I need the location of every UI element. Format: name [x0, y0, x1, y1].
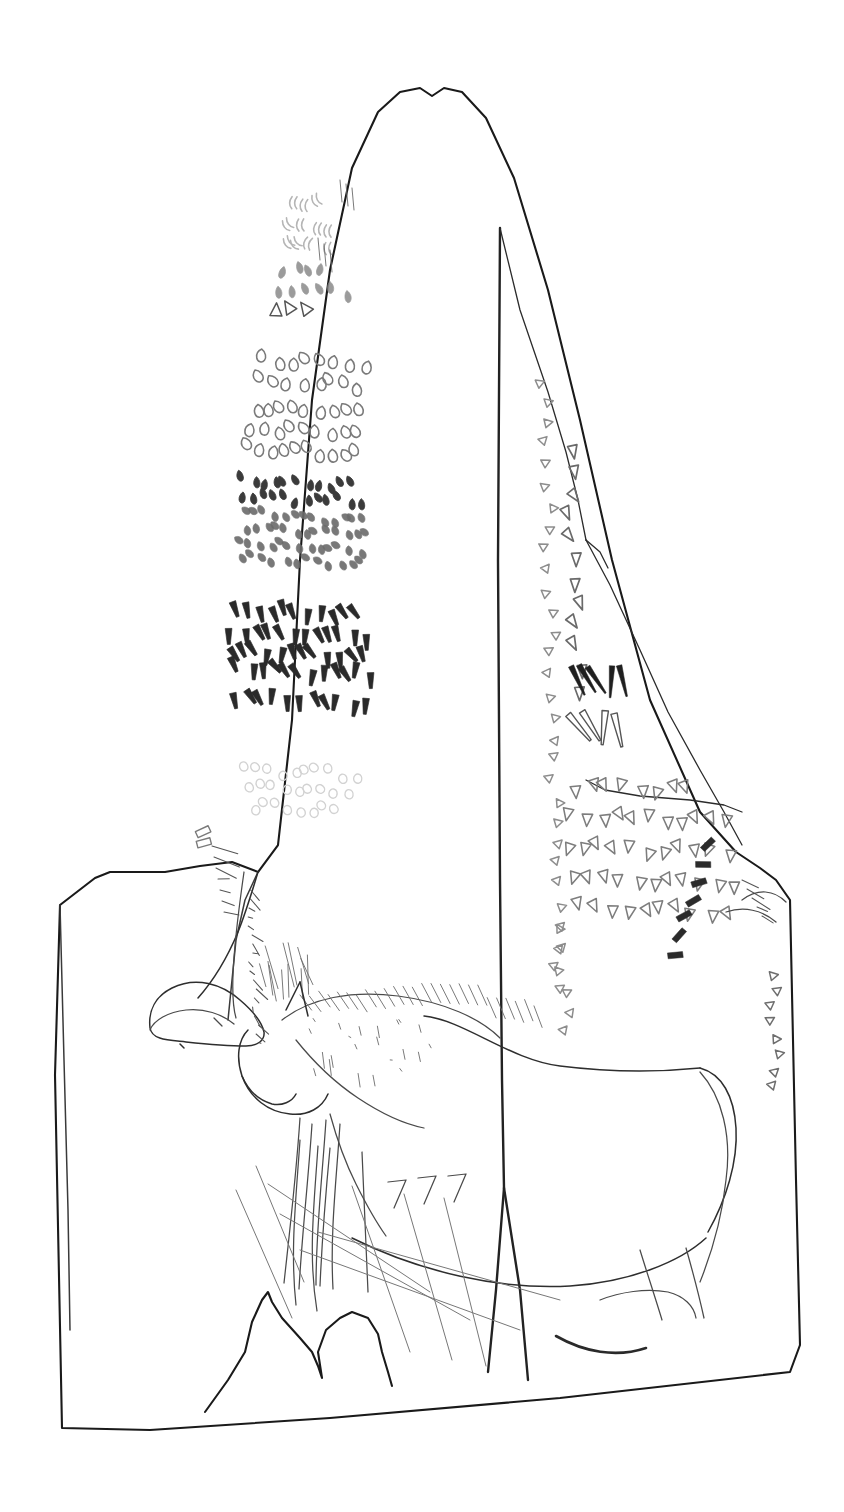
engraved-mark: [563, 808, 574, 821]
engraved-mark: [323, 763, 332, 773]
horse-figure-main-hoof-path: [600, 1290, 696, 1318]
engraved-mark: [644, 809, 655, 822]
mane-hatch-stroke: [440, 984, 450, 1003]
engraved-mark: [685, 894, 703, 907]
engraved-mark: [284, 695, 291, 711]
mane-fill-tick: [399, 1020, 401, 1023]
mane-fill-tick: [373, 1075, 375, 1086]
engraved-mark: [290, 497, 299, 509]
engraved-mark: [612, 806, 628, 822]
engraved-mark: [277, 442, 289, 457]
engraved-mark: [195, 826, 211, 838]
engraved-mark: [241, 524, 254, 537]
engraved-mark: [310, 425, 319, 438]
engraved-mark: [579, 710, 602, 742]
outline-taper-strokes: [566, 710, 625, 748]
neck-hatch-stroke: [248, 917, 253, 918]
engraved-mark: [549, 608, 560, 618]
engraved-mark: [588, 835, 604, 851]
engraved-mark: [544, 645, 555, 656]
engraved-mark: [289, 358, 298, 371]
dark-wedge-block: [225, 599, 374, 717]
engraved-mark: [310, 553, 325, 568]
figure-plate: [0, 0, 844, 1512]
horse-figure-main-foreleg-a: [320, 1148, 330, 1286]
engraved-mark: [235, 469, 244, 482]
engraved-mark: [296, 299, 313, 317]
engraved-mark: [562, 527, 578, 543]
engraved-mark: [695, 859, 712, 869]
engraved-mark: [659, 847, 671, 861]
neck-hatch-stroke: [248, 926, 253, 930]
arrow-cluster: [270, 298, 313, 317]
engraved-mark: [675, 872, 689, 887]
engraved-mark: [242, 602, 252, 619]
mane-fill-tick: [331, 1056, 333, 1068]
engraved-mark: [312, 351, 327, 367]
engraved-mark: [573, 595, 587, 611]
engraved-mark: [316, 263, 324, 276]
scratch-line: [444, 1198, 486, 1366]
engraved-mark: [604, 839, 620, 855]
engraved-mark: [238, 761, 248, 772]
engraved-mark: [552, 874, 564, 886]
engraved-mark: [557, 903, 567, 913]
engraved-mark: [568, 871, 580, 885]
engraved-mark: [320, 371, 334, 387]
engraved-mark: [541, 562, 553, 574]
horse-figure-main-tail-path: [700, 1072, 728, 1282]
teardrop-marks-upper: [275, 261, 353, 304]
mane-hatch-stroke: [337, 992, 348, 1008]
mane-fill-tick: [429, 1044, 431, 1048]
engraved-mark: [251, 368, 265, 384]
mane-fill-tick: [314, 1069, 316, 1076]
bovid-head-left-jaw-path: [150, 1010, 234, 1030]
engraved-mark: [545, 524, 556, 535]
mane-fill-tick: [419, 1025, 421, 1032]
engraved-mark: [314, 783, 326, 795]
engraved-mark: [570, 579, 580, 593]
engraved-mark: [775, 1050, 784, 1059]
engraved-mark: [307, 669, 317, 686]
engraved-mark: [280, 377, 291, 391]
neck-hatch-stroke: [249, 908, 255, 911]
engraved-mark: [253, 404, 264, 418]
withers-bristle: [282, 970, 284, 999]
horse-figure-main-chest-path: [330, 1114, 386, 1236]
engraved-mark: [300, 378, 310, 392]
engraved-mark: [244, 782, 254, 793]
withers-bristle: [260, 964, 266, 987]
engraved-mark: [300, 199, 308, 211]
engraved-mark: [551, 630, 562, 641]
mane-fill-tick: [313, 1019, 315, 1022]
right-edge-triangle-column: [765, 972, 784, 1091]
animal-figures: [150, 872, 737, 1353]
engraved-mark: [767, 1079, 779, 1091]
engraved-mark: [269, 511, 282, 524]
engraved-mark: [347, 442, 360, 457]
shoulder-hatch-stroke: [212, 846, 238, 854]
engraved-mark: [267, 688, 275, 705]
engraved-mark: [277, 647, 287, 664]
horse-figure-main-dark-hoof-stroke: [556, 1336, 646, 1353]
engraved-mark: [550, 854, 562, 866]
engraved-mark: [272, 624, 286, 641]
engraved-mark: [196, 838, 212, 848]
engraved-mark: [598, 868, 613, 884]
engraved-mark: [330, 694, 339, 711]
engraved-mark: [249, 492, 257, 504]
engraved-mark: [328, 803, 340, 815]
engraved-mark: [280, 298, 297, 315]
engraved-mark: [256, 349, 266, 362]
engraved-mark: [570, 784, 583, 799]
engraved-mark: [301, 783, 313, 795]
mane-fill-tick: [349, 1036, 351, 1037]
engraved-mark: [607, 666, 615, 698]
engraved-mark: [580, 869, 595, 885]
neck-hatch-stroke: [253, 1007, 254, 1012]
engraved-mark: [283, 556, 294, 567]
engraved-mark: [288, 285, 296, 298]
horse-figure-main: [239, 994, 737, 1353]
engraved-mark: [328, 609, 340, 626]
engraved-mark: [636, 877, 647, 890]
